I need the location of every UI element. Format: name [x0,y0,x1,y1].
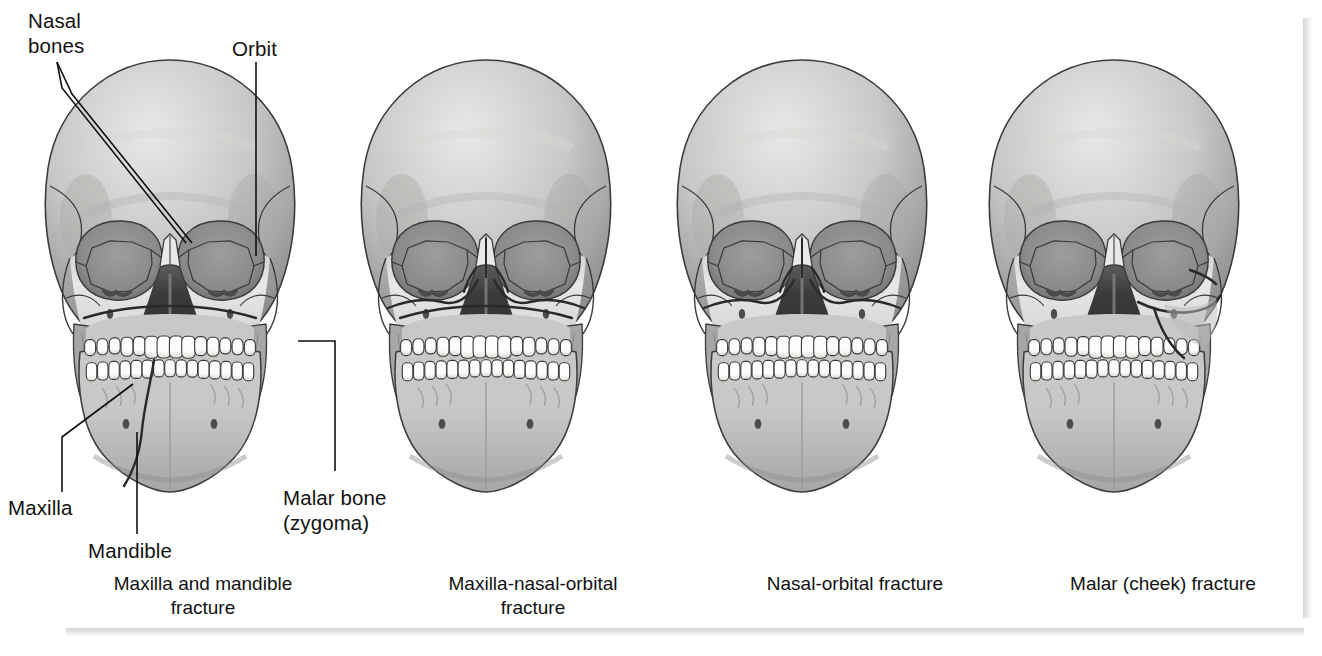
skull-illustration-1 [14,52,326,522]
callout-label-maxilla: Maxilla [8,495,73,520]
skull-illustration-2 [330,52,642,522]
callout-label-malar-bone: Malar bone (zygoma) [283,485,387,535]
callout-label-mandible: Mandible [88,538,172,563]
skull-illustration-4 [958,52,1270,522]
skull-illustration-3 [646,52,958,522]
callout-label-orbit: Orbit [232,36,277,61]
callout-label-nasal-bones: Nasal bones [28,8,84,58]
panel-caption-4: Malar (cheek) fracture [1008,572,1318,596]
panel-caption-3: Nasal-orbital fracture [700,572,1010,596]
panel-caption-1: Maxilla and mandible fracture [48,572,358,620]
figure-canvas: Nasal bones Orbit Maxilla Mandible Malar… [0,0,1322,656]
panel-caption-2: Maxilla-nasal-orbital fracture [378,572,688,620]
skull-panel-stage [0,0,1322,656]
